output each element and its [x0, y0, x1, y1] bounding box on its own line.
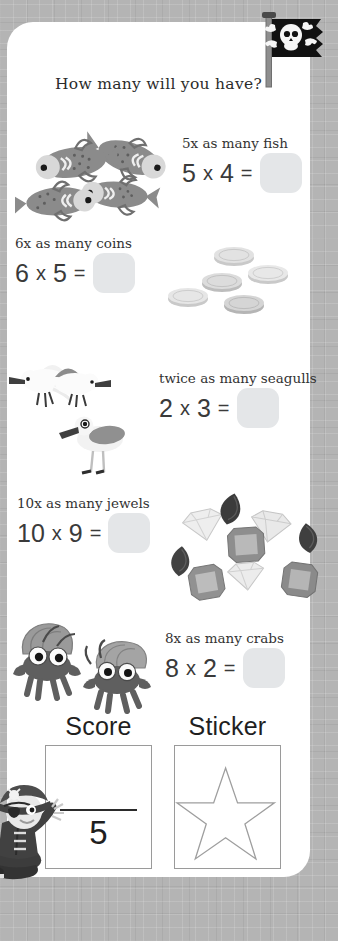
- sticker-label: Sticker: [174, 712, 281, 741]
- footer-score-sticker: Score 5 Sticker: [45, 712, 281, 869]
- problem-seagulls-operator: x: [180, 397, 190, 420]
- problem-seagulls-equals: =: [218, 397, 230, 420]
- problem-crabs-prompt: 8x as many crabs: [165, 630, 285, 646]
- coins-illustration: [162, 240, 297, 334]
- problem-jewels-prompt: 10x as many jewels: [17, 495, 150, 511]
- problem-fish-prompt: 5x as many fish: [182, 135, 302, 151]
- problem-coins: 6x as many coins 6 x 5 =: [15, 235, 135, 293]
- sticker-group: Sticker: [174, 712, 281, 869]
- problem-coins-quantity: 5: [53, 259, 67, 288]
- problem-coins-answer-box[interactable]: [93, 253, 135, 293]
- problem-seagulls: twice as many seagulls 2 x 3 =: [159, 370, 317, 428]
- pirate-boy-icon: [0, 775, 74, 887]
- problem-coins-prompt: 6x as many coins: [15, 235, 135, 251]
- worksheet-card: How many will you have? 5x as many fish …: [7, 22, 310, 877]
- problem-jewels-equation: 10 x 9 =: [17, 513, 150, 553]
- problem-coins-operator: x: [36, 262, 46, 285]
- problem-jewels: 10x as many jewels 10 x 9 =: [17, 495, 150, 553]
- problem-fish-equation: 5 x 4 =: [182, 153, 302, 193]
- jewels-illustration: [169, 487, 329, 606]
- problem-coins-equals: =: [74, 262, 86, 285]
- problem-jewels-quantity: 9: [69, 519, 83, 548]
- seagulls-illustration: [7, 347, 177, 481]
- problem-crabs-equation: 8 x 2 =: [165, 648, 285, 688]
- problem-fish-answer-box[interactable]: [260, 153, 302, 193]
- fish-illustration: [15, 122, 185, 226]
- problem-crabs-answer-box[interactable]: [243, 648, 285, 688]
- problem-crabs: 8x as many crabs 8 x 2 =: [165, 630, 285, 688]
- problem-coins-multiplier: 6: [15, 259, 29, 288]
- problem-jewels-equals: =: [90, 522, 102, 545]
- problem-seagulls-equation: 2 x 3 =: [159, 388, 317, 428]
- problem-fish: 5x as many fish 5 x 4 =: [182, 135, 302, 193]
- star-icon: [175, 746, 278, 866]
- problem-jewels-operator: x: [52, 522, 62, 545]
- score-label: Score: [45, 712, 152, 741]
- problem-fish-quantity: 4: [220, 159, 234, 188]
- problem-crabs-equals: =: [224, 657, 236, 680]
- problem-seagulls-answer-box[interactable]: [237, 388, 279, 428]
- problem-crabs-quantity: 2: [203, 654, 217, 683]
- sticker-box[interactable]: [174, 745, 281, 869]
- crabs-illustration: [7, 614, 167, 723]
- pirate-flag-icon: [247, 3, 337, 93]
- problem-coins-equation: 6 x 5 =: [15, 253, 135, 293]
- problem-jewels-multiplier: 10: [17, 519, 45, 548]
- problem-jewels-answer-box[interactable]: [108, 513, 150, 553]
- problem-fish-equals: =: [241, 162, 253, 185]
- problem-crabs-operator: x: [186, 657, 196, 680]
- problem-seagulls-quantity: 3: [197, 394, 211, 423]
- problem-fish-operator: x: [203, 162, 213, 185]
- problem-seagulls-prompt: twice as many seagulls: [159, 370, 317, 386]
- problem-crabs-multiplier: 8: [165, 654, 179, 683]
